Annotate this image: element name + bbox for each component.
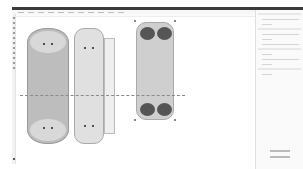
scale-tool-icon[interactable] (13, 52, 15, 54)
cherry-icon (157, 103, 172, 116)
hand-tool-icon[interactable] (13, 62, 15, 64)
cherry-package-artwork[interactable] (136, 22, 174, 120)
menu-item[interactable] (78, 12, 84, 13)
menu-item[interactable] (118, 12, 124, 13)
panel-row (262, 59, 299, 60)
panel-row (262, 39, 272, 40)
menu-item[interactable] (38, 12, 44, 13)
eye-icon (43, 127, 45, 129)
eye-icon (84, 125, 86, 127)
donut-top-illustration (30, 31, 66, 53)
milk-carton-side-panel (104, 38, 115, 134)
panel-tabs[interactable] (258, 13, 301, 15)
eye-icon (84, 47, 86, 49)
eye-icon (51, 127, 53, 129)
panel-button[interactable] (270, 156, 290, 158)
menu-item[interactable] (108, 12, 114, 13)
pen-tool-icon[interactable] (13, 27, 15, 29)
panel-row (262, 74, 272, 75)
direct-selection-tool-icon[interactable] (13, 22, 15, 24)
panel-row (262, 54, 272, 55)
eye-icon (43, 43, 45, 45)
selection-tool-icon[interactable] (13, 17, 15, 19)
milk-carton-package-artwork[interactable] (74, 28, 104, 144)
selection-handle[interactable] (134, 119, 136, 121)
menu-item[interactable] (28, 12, 34, 13)
menu-item[interactable] (48, 12, 54, 13)
panel-button[interactable] (270, 150, 290, 152)
selection-handle[interactable] (174, 119, 176, 121)
panel-row (262, 44, 299, 45)
donut-bottom-illustration (30, 119, 66, 141)
menu-item[interactable] (18, 12, 24, 13)
panel-section-header[interactable] (258, 68, 301, 70)
panel-row (262, 34, 299, 35)
fill-stroke-swatch[interactable] (13, 158, 15, 160)
eye-icon (51, 43, 53, 45)
selection-handle[interactable] (174, 20, 176, 22)
fold-line (20, 95, 185, 96)
donut-package-artwork[interactable] (27, 28, 69, 144)
properties-panel (255, 10, 303, 169)
rotate-tool-icon[interactable] (13, 47, 15, 49)
shape-tool-icon[interactable] (13, 37, 15, 39)
selection-handle[interactable] (134, 20, 136, 22)
zoom-tool-icon[interactable] (13, 67, 15, 69)
panel-row (262, 19, 299, 20)
type-tool-icon[interactable] (13, 32, 15, 34)
menu-item[interactable] (68, 12, 74, 13)
cherry-icon (157, 27, 172, 40)
panel-row (262, 24, 272, 25)
eye-icon (92, 125, 94, 127)
menu-item[interactable] (98, 12, 104, 13)
brush-tool-icon[interactable] (13, 42, 15, 44)
panel-row (262, 64, 272, 65)
menu-item[interactable] (58, 12, 64, 13)
menu-item[interactable] (88, 12, 94, 13)
eyedropper-tool-icon[interactable] (13, 57, 15, 59)
panel-section-header[interactable] (258, 48, 301, 50)
panel-section-header[interactable] (258, 28, 301, 30)
cherry-icon (140, 103, 155, 116)
cherry-icon (140, 27, 155, 40)
eye-icon (92, 47, 94, 49)
